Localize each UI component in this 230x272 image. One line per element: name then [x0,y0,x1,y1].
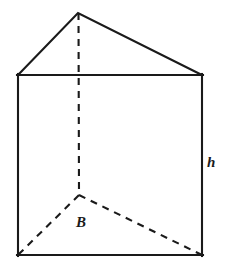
top-triangular-face-fill [18,13,202,75]
triangular-prism-figure: B h [0,0,230,272]
front-rectangular-face-fill [18,75,202,255]
prism-drawing [0,0,230,272]
base-label: B [76,215,86,230]
height-label: h [207,155,215,170]
